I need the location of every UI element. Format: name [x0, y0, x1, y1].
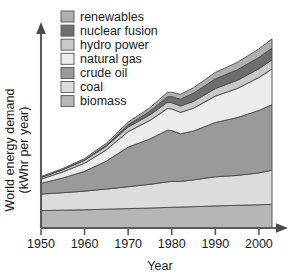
legend-swatch-nuclear-fusion — [61, 25, 74, 36]
legend-swatch-natural-gas — [61, 53, 74, 64]
chart-figure: 195019601970198019902000 Year World ener… — [0, 0, 296, 276]
legend-label-hydro-power: hydro power — [80, 38, 149, 52]
legend-swatch-renewables — [61, 11, 74, 22]
x-tick-label-2000: 2000 — [245, 237, 273, 251]
x-tick-label-1950: 1950 — [27, 237, 55, 251]
x-tick-label-1980: 1980 — [158, 237, 186, 251]
y-axis-arrow-icon — [36, 22, 46, 34]
y-axis-title-line1: World energy demand — [3, 89, 17, 212]
legend-swatch-biomass — [61, 96, 74, 107]
area-bands-group — [41, 39, 272, 228]
legend-label-natural-gas: natural gas — [80, 52, 142, 66]
y-axis-title-line2: (kWhr per year) — [17, 107, 31, 194]
x-tick-label-1970: 1970 — [114, 237, 142, 251]
x-tick-labels: 195019601970198019902000 — [27, 237, 273, 251]
x-axis-arrow-icon — [276, 223, 288, 233]
legend-label-nuclear-fusion: nuclear fusion — [80, 24, 158, 38]
chart-legend: renewablesnuclear fusionhydro powernatur… — [61, 10, 158, 109]
x-tick-label-1960: 1960 — [71, 237, 99, 251]
x-tick-marks — [41, 229, 259, 235]
legend-swatch-hydro-power — [61, 39, 74, 50]
x-tick-label-1990: 1990 — [201, 237, 229, 251]
legend-swatch-coal — [61, 82, 74, 93]
x-axis-title: Year — [147, 259, 172, 273]
stacked-area-chart: 195019601970198019902000 Year World ener… — [0, 0, 296, 276]
legend-label-crude-oil: crude oil — [80, 66, 127, 80]
legend-swatch-crude-oil — [61, 67, 74, 78]
legend-label-renewables: renewables — [80, 10, 144, 24]
legend-label-coal: coal — [80, 80, 103, 94]
legend-label-biomass: biomass — [80, 94, 127, 108]
